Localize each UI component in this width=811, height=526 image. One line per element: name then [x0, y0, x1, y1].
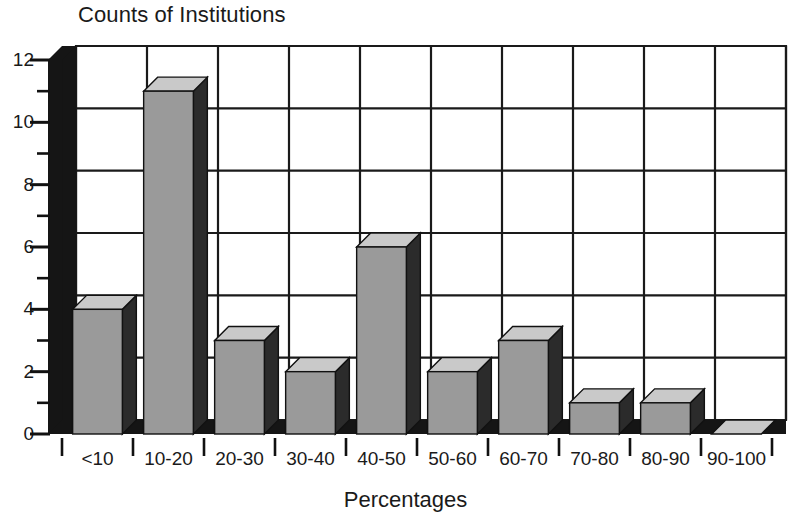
x-axis-tick-label: 60-70 [499, 448, 548, 470]
x-axis-tick-label: 80-90 [641, 448, 690, 470]
y-axis-ticks [30, 60, 50, 434]
x-axis-tick-label: 30-40 [286, 448, 335, 470]
bar [215, 327, 279, 435]
x-axis-tick-label: <10 [81, 448, 113, 470]
x-axis-title: Percentages [0, 487, 811, 513]
x-axis-tick-label: 20-30 [215, 448, 264, 470]
x-axis-tick-label: 70-80 [570, 448, 619, 470]
bar [144, 77, 208, 434]
x-axis-tick-label: 90-100 [707, 448, 766, 470]
bar [73, 295, 137, 434]
bar [570, 389, 634, 434]
bar-chart: Counts of Institutions 024681012 <1010-2… [0, 0, 811, 526]
bar [286, 358, 350, 434]
bar [499, 327, 563, 435]
bar [428, 358, 492, 434]
x-axis-tick-label: 50-60 [428, 448, 477, 470]
x-axis-tick-label: 10-20 [144, 448, 193, 470]
bar [641, 389, 705, 434]
x-axis-tick-label: 40-50 [357, 448, 406, 470]
bar [357, 233, 421, 434]
